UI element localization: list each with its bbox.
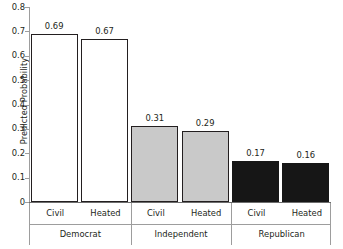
group-label-independent: Independent: [131, 229, 231, 239]
bar-value-label: 0.16: [286, 151, 326, 160]
bar-value-label: 0.29: [185, 119, 225, 128]
bar-value-label: 0.67: [85, 27, 125, 36]
category-axis-row-divider: [30, 224, 330, 225]
category-axis: CivilHeatedDemocratCivilHeatedIndependen…: [29, 203, 331, 245]
bar-independent-heated: [182, 131, 229, 202]
bar-value-label: 0.69: [34, 22, 74, 31]
bar-democrat-civil: [31, 34, 78, 202]
bar-democrat-heated: [81, 39, 128, 202]
condition-label-republican-heated: Heated: [277, 208, 337, 218]
bar-chart: Predicted Probability 0.80.70.60.50.40.3…: [0, 0, 343, 249]
bar-independent-civil: [131, 126, 178, 202]
group-label-republican: Republican: [232, 229, 332, 239]
bar-value-label: 0.31: [135, 114, 175, 123]
bar-value-label: 0.17: [236, 149, 276, 158]
group-label-democrat: Democrat: [30, 229, 130, 239]
bar-republican-civil: [232, 161, 279, 202]
bar-republican-heated: [282, 163, 329, 202]
